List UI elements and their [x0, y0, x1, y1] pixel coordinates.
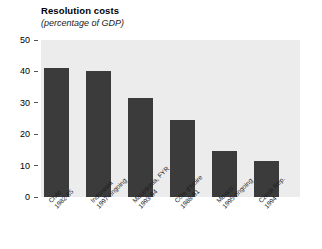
- y-axis-tick: 20: [20, 128, 41, 140]
- y-axis-tick-label: 50: [20, 34, 30, 46]
- chart-title: Resolution costs: [41, 5, 301, 17]
- y-axis-tick-mark: [34, 134, 38, 135]
- y-axis-tick: 30: [20, 97, 41, 109]
- chart-subtitle: (percentage of GDP): [41, 17, 301, 29]
- y-axis-tick-mark: [34, 165, 38, 166]
- y-axis-tick-mark: [34, 197, 38, 198]
- y-axis-tick: 0: [25, 191, 41, 203]
- x-axis: Chile 1982-85 Indonesia 1997-ongoing Mac…: [41, 197, 300, 249]
- y-axis-tick-label: 10: [20, 160, 30, 172]
- y-axis-tick-label: 20: [20, 128, 30, 140]
- y-axis-tick: 50: [20, 34, 41, 46]
- y-axis-tick-label: 0: [25, 191, 30, 203]
- y-axis-tick: 10: [20, 160, 41, 172]
- bar: [44, 68, 69, 197]
- chart-title-block: Resolution costs (percentage of GDP): [41, 5, 301, 29]
- y-axis-tick-label: 40: [20, 65, 30, 77]
- y-axis-tick-mark: [34, 71, 38, 72]
- y-axis-tick-mark: [34, 40, 38, 41]
- y-axis-tick: 40: [20, 65, 41, 77]
- y-axis-tick-label: 30: [20, 97, 30, 109]
- chart-figure: Resolution costs (percentage of GDP) 50 …: [0, 0, 322, 249]
- y-axis: 50 40 30 20 10 0: [0, 40, 41, 197]
- y-axis-tick-mark: [34, 102, 38, 103]
- bar: [86, 71, 111, 197]
